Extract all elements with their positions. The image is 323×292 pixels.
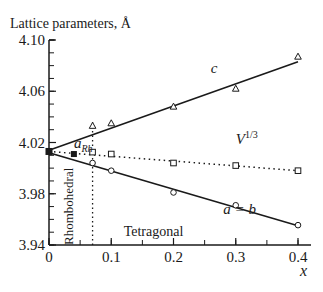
annotations: cV1/3a = baRhTetragonalRhombohedral — [61, 60, 258, 245]
y-axis-label: Lattice parameters, Å — [10, 16, 132, 31]
data-point-v-1-3 — [295, 168, 301, 174]
data-point-c — [89, 122, 96, 128]
data-point-v-1-3 — [171, 160, 177, 166]
y-tick-label: 3.98 — [19, 186, 45, 202]
x-tick-label: 0.2 — [164, 249, 183, 265]
data-point-a-rh — [71, 151, 77, 157]
tetragonal-label: Tetragonal — [124, 224, 184, 239]
lattice-parameters-chart: Lattice parameters, Å x 3.943.984.024.06… — [0, 0, 323, 292]
data-point-a-b — [90, 160, 96, 166]
v-label: V1/3 — [236, 129, 258, 147]
data-point-v-1-3 — [233, 163, 239, 169]
v-superscript: 1/3 — [245, 129, 258, 140]
data-point-v-1-3 — [108, 151, 114, 157]
rhombohedral-label: Rhombohedral — [61, 167, 76, 245]
data-point-a-b — [108, 168, 114, 174]
data-point-a-b — [295, 222, 301, 228]
data-point-c — [232, 85, 239, 91]
c-label: c — [211, 60, 218, 76]
x-tick-label: 0.1 — [102, 249, 121, 265]
data-point-a-b — [171, 190, 177, 196]
arh-subscript: Rh — [80, 143, 92, 154]
y-tick-label: 3.94 — [19, 237, 46, 253]
y-tick-label: 4.10 — [19, 32, 45, 48]
data-point-a-rh — [46, 148, 53, 155]
data-point-c — [108, 120, 115, 126]
y-tick-label: 4.06 — [19, 83, 46, 99]
y-tick-label: 4.02 — [19, 135, 45, 151]
x-tick-label: 0 — [45, 249, 53, 265]
data-point-c — [295, 53, 302, 59]
x-tick-label: 0.4 — [289, 249, 308, 265]
x-tick-label: 0.3 — [226, 249, 245, 265]
series-markers — [46, 53, 302, 228]
ab-label: a = b — [223, 201, 256, 217]
